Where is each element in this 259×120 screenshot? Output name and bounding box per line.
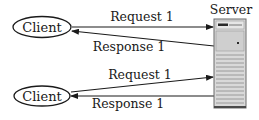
request-arrow-1: Request 1 [72,9,213,27]
response-1-label: Response 1 [93,39,166,54]
server-label: Server [210,2,252,17]
response-arrow-1: Response 1 [72,31,214,54]
server-node: Server [210,2,252,108]
server-tower-icon [214,19,246,108]
request-1-label: Request 1 [110,9,174,24]
response-arrow-2: Response 1 [71,96,214,111]
request-2-label: Request 1 [108,67,172,82]
response-2-label: Response 1 [92,96,165,111]
request-arrow-2: Request 1 [71,67,213,92]
client-2-label: Client [22,89,62,104]
client-1-label: Client [22,20,62,35]
client-node-2: Client [14,86,70,106]
client-server-diagram: Client Client Request 1 Response 1 Reque… [0,0,259,120]
client-node-1: Client [13,17,71,38]
